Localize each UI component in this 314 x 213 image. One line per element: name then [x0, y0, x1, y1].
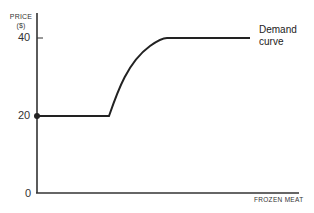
y-tick-label-0: 0 [25, 187, 31, 199]
demand-curve-line [37, 38, 250, 116]
series-label-line1: Demand [259, 24, 297, 36]
price-20-marker [34, 113, 40, 119]
y-tick-label-40: 40 [18, 31, 30, 43]
y-axis-label-line2: ($) [6, 22, 36, 29]
x-axis-label: FROZEN MEAT [254, 196, 303, 203]
y-axis-label-line1: PRICE [6, 13, 36, 20]
series-label-line2: curve [259, 36, 283, 48]
y-tick-label-20: 20 [18, 109, 30, 121]
